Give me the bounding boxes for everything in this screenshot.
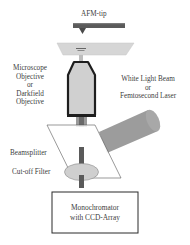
afm-cantilever <box>73 23 125 34</box>
light-source-label-line: or <box>108 84 188 93</box>
beam-segment-middle <box>79 147 84 164</box>
sample-plate <box>57 43 134 55</box>
objective-label-line: Objective <box>4 98 56 107</box>
objective-label: Microscope Objective or Darkfield Object… <box>4 64 56 107</box>
monochromator-label-line: with CCD-Array <box>52 213 138 223</box>
cutoff-filter-label: Cut-off Filter <box>12 168 50 177</box>
objective-label-line: Microscope <box>4 64 56 73</box>
monochromator-label: Monochromator with CCD-Array <box>52 203 138 223</box>
microscope-objective <box>68 62 95 115</box>
objective-label-line: Darkfield <box>4 90 56 99</box>
objective-label-line: or <box>4 81 56 90</box>
light-source-beam <box>99 108 163 153</box>
beamsplitter-label: Beamsplitter <box>10 149 47 158</box>
afm-tip-label: AFM-tip <box>81 10 107 19</box>
light-source-label: White Light Beam or Femtosecond Laser <box>108 75 188 101</box>
beam-segment-lower <box>79 175 84 188</box>
objective-label-line: Objective <box>4 73 56 82</box>
afm-tip-icon <box>79 28 86 34</box>
monochromator-label-line: Monochromator <box>52 203 138 213</box>
light-source-label-line: Femtosecond Laser <box>108 92 188 101</box>
light-source-label-line: White Light Beam <box>108 75 188 84</box>
